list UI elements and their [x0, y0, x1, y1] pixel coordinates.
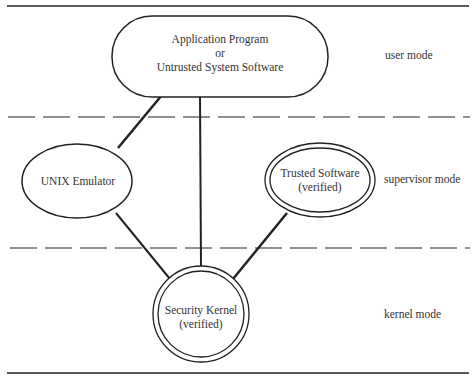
node-security-kernel: Security Kernel (verified) — [153, 266, 249, 362]
supervisor-mode-label: supervisor mode — [384, 173, 460, 186]
node-unix-emulator: UNIX Emulator — [22, 144, 132, 218]
node-application: Application Program or Untrusted System … — [112, 16, 328, 97]
trusted-line1: Trusted Software — [280, 167, 359, 179]
application-line3: Untrusted System Software — [157, 61, 283, 74]
node-trusted-software: Trusted Software (verified) — [265, 143, 375, 217]
kernel-mode-label: kernel mode — [384, 308, 441, 320]
edge-application-kernel — [200, 96, 201, 268]
user-mode-label: user mode — [385, 49, 433, 61]
security-architecture-diagram: Application Program or Untrusted System … — [0, 0, 476, 381]
unix-label: UNIX Emulator — [41, 175, 116, 187]
application-line1: Application Program — [172, 33, 269, 46]
edge-unix-kernel — [116, 213, 170, 279]
kernel-line2: (verified) — [179, 318, 223, 331]
edge-trusted-kernel — [233, 213, 287, 279]
application-line2: or — [215, 47, 225, 59]
trusted-line2: (verified) — [298, 181, 342, 194]
edge-application-unix — [118, 95, 162, 148]
kernel-line1: Security Kernel — [165, 304, 238, 317]
